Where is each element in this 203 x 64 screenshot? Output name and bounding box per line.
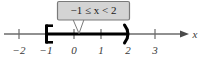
tick-label: 3: [151, 44, 158, 56]
tick-label: 1: [98, 44, 104, 56]
number-line-interval-figure: −2 −1 0 1 2 3 x −1 ≤ x < 2: [0, 0, 203, 64]
callout-label: −1 ≤ x < 2: [71, 4, 117, 16]
tick-label: −2: [13, 44, 26, 56]
axis-variable-label: x: [192, 28, 198, 40]
number-line-svg: −2 −1 0 1 2 3 x −1 ≤ x < 2: [0, 0, 203, 64]
tick-label: 0: [71, 44, 77, 56]
axis-arrowhead-icon: [180, 31, 189, 38]
callout-leader-pointer: [73, 20, 84, 34]
tick-labels: −2 −1 0 1 2 3: [13, 44, 159, 56]
tick-label: −1: [40, 44, 53, 56]
tick-label: 2: [125, 44, 131, 56]
